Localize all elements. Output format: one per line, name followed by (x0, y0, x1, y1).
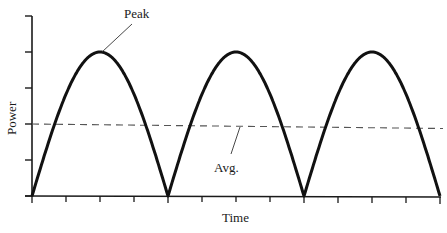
average-line (32, 124, 443, 129)
x-axis (25, 196, 441, 204)
peak-label: Peak (124, 6, 150, 21)
y-axis-label: Power (4, 101, 19, 135)
x-axis-label: Time (222, 210, 249, 225)
average-label: Avg. (214, 160, 239, 175)
power-waveform-diagram: Peak Avg. Time Power (0, 0, 447, 233)
peak-leader-line (102, 24, 132, 52)
y-axis (25, 16, 32, 197)
average-leader-line (231, 127, 240, 154)
